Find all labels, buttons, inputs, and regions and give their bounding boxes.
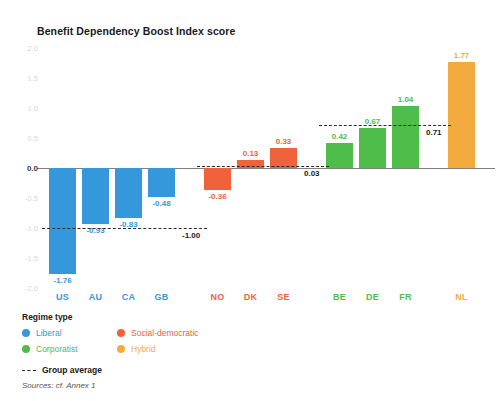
legend-swatch-icon [22, 329, 30, 337]
bar-value-label: 0.13 [243, 149, 259, 158]
x-axis-tick-fr: FR [392, 292, 419, 302]
legend-item-label: Social-democratic [131, 328, 199, 338]
y-axis-tick-label: 1.0 [28, 104, 38, 113]
x-axis-tick-dk: DK [237, 292, 264, 302]
bar-value-label: -1.76 [53, 276, 71, 285]
bar-value-label: -0.48 [152, 199, 170, 208]
bar-nl[interactable] [448, 62, 475, 168]
y-axis-tick-label: 2.0 [28, 44, 38, 53]
bar-value-label: 0.33 [276, 137, 292, 146]
x-axis-tick-nl: NL [448, 292, 475, 302]
legend: Regime type LiberalSocial-democraticCorp… [22, 312, 199, 375]
x-axis-tick-no: NO [204, 292, 231, 302]
legend-item-hybrid[interactable]: Hybrid [117, 344, 199, 354]
bar-gb[interactable] [148, 168, 175, 197]
legend-items: LiberalSocial-democraticCorporatistHybri… [22, 328, 199, 354]
legend-group-average-label: Group average [42, 365, 102, 375]
legend-swatch-icon [22, 345, 30, 353]
bar-fr[interactable] [392, 106, 419, 168]
x-axis-tick-gb: GB [148, 292, 175, 302]
bar-value-label: 1.77 [454, 51, 470, 60]
x-axis-tick-us: US [49, 292, 76, 302]
x-axis-tick-au: AU [82, 292, 109, 302]
y-axis-tick-label: 1.5 [28, 74, 38, 83]
group-average-value: -1.00 [182, 231, 200, 240]
legend-item-social-democratic[interactable]: Social-democratic [117, 328, 199, 338]
legend-item-label: Corporatist [36, 344, 78, 354]
bar-ca[interactable] [115, 168, 142, 218]
x-axis-tick-be: BE [326, 292, 353, 302]
page-title: Benefit Dependency Boost Index score [37, 25, 235, 37]
legend-item-corporatist[interactable]: Corporatist [22, 344, 117, 354]
y-axis-tick-label: 0.5 [28, 134, 38, 143]
legend-title: Regime type [22, 312, 199, 322]
chart-figure: Benefit Dependency Boost Index score 2.0… [0, 0, 504, 401]
bar-au[interactable] [82, 168, 109, 224]
bar-no[interactable] [204, 168, 231, 190]
y-axis-tick-label: -1.5 [25, 254, 38, 263]
group-average-line-liberal [42, 228, 207, 229]
bar-se[interactable] [270, 148, 297, 168]
legend-item-label: Liberal [36, 328, 62, 338]
bar-us[interactable] [49, 168, 76, 274]
dashed-line-icon [22, 370, 36, 371]
x-axis-tick-se: SE [270, 292, 297, 302]
y-axis-tick-label: -2.0 [25, 284, 38, 293]
x-axis-tick-de: DE [359, 292, 386, 302]
source-note: Sources: cf. Annex 1 [22, 381, 96, 390]
bar-be[interactable] [326, 143, 353, 168]
y-axis-tick-label: -0.5 [25, 194, 38, 203]
legend-group-average: Group average [22, 365, 199, 375]
legend-swatch-icon [117, 345, 125, 353]
legend-item-label: Hybrid [131, 344, 156, 354]
group-average-line-social-democratic [197, 166, 329, 167]
legend-item-liberal[interactable]: Liberal [22, 328, 117, 338]
x-axis-tick-ca: CA [115, 292, 142, 302]
bar-de[interactable] [359, 128, 386, 168]
group-average-value: 0.03 [304, 169, 320, 178]
group-average-value: 0.71 [426, 128, 442, 137]
plot-area: 2.01.51.00.50.0-0.5-1.0-1.5-2.0-1.76US-0… [43, 48, 495, 288]
bar-value-label: 1.04 [398, 95, 414, 104]
y-axis-tick-label: 0.0 [27, 164, 38, 173]
bar-value-label: 0.42 [332, 132, 348, 141]
group-average-line-corporatist [319, 125, 451, 126]
legend-swatch-icon [117, 329, 125, 337]
bar-value-label: -0.36 [208, 192, 226, 201]
y-axis-tick-label: -1.0 [25, 224, 38, 233]
